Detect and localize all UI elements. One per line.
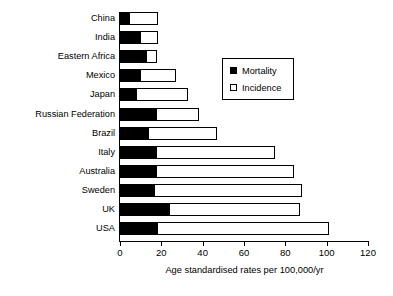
bar-segment-mortality	[120, 12, 130, 25]
bar-chart: ChinaIndiaEastern AfricaMexicoJapanRussi…	[0, 0, 393, 296]
bar-segment-mortality	[120, 184, 155, 197]
x-axis-tick	[244, 241, 245, 246]
bar-segment-mortality	[120, 31, 141, 44]
y-axis-label: UK	[102, 204, 115, 214]
bar-segment-mortality	[120, 165, 157, 178]
bar-row	[120, 165, 368, 178]
x-axis-tick	[161, 241, 162, 246]
legend-swatch-mortality-icon	[230, 67, 237, 74]
bar-row	[120, 184, 368, 197]
x-axis-tick-label: 80	[280, 247, 291, 258]
x-axis-tick-label: 0	[117, 247, 122, 258]
legend-label-mortality: Mortality	[242, 66, 277, 76]
x-axis-tick	[203, 241, 204, 246]
bar-row	[120, 127, 368, 140]
x-axis-tick	[368, 241, 369, 246]
legend-item-incidence: Incidence	[230, 82, 281, 93]
x-axis-tick	[285, 241, 286, 246]
legend: Mortality Incidence	[222, 58, 294, 100]
bar-segment-mortality	[120, 146, 157, 159]
bar-segment-mortality	[120, 127, 149, 140]
legend-swatch-incidence-icon	[230, 84, 237, 91]
bar-row	[120, 108, 368, 121]
bar-segment-mortality	[120, 222, 158, 235]
y-axis-label: Sweden	[82, 185, 115, 195]
bar-row	[120, 12, 368, 25]
y-axis-label: Eastern Africa	[58, 51, 115, 61]
bar-segment-mortality	[120, 203, 170, 216]
x-axis-tick	[327, 241, 328, 246]
bar-segment-mortality	[120, 69, 141, 82]
x-axis-tick	[120, 241, 121, 246]
x-axis-tick-label: 40	[197, 247, 208, 258]
y-axis-label: China	[91, 13, 115, 23]
y-axis-label: Italy	[98, 147, 115, 157]
y-axis-category-labels: ChinaIndiaEastern AfricaMexicoJapanRussi…	[0, 12, 115, 241]
x-axis-title: Age standardised rates per 100,000/yr	[120, 265, 369, 275]
y-axis-label: Brazil	[92, 128, 115, 138]
x-axis-tick-label: 20	[156, 247, 167, 258]
bar-row	[120, 146, 368, 159]
bar-segment-mortality	[120, 88, 137, 101]
y-axis-label: Australia	[79, 166, 115, 176]
plot-area	[120, 12, 368, 241]
bar-row	[120, 222, 368, 235]
x-axis-tick-label: 120	[360, 247, 376, 258]
legend-item-mortality: Mortality	[230, 65, 277, 76]
y-axis-label: India	[95, 32, 115, 42]
x-axis-tick-label: 100	[319, 247, 335, 258]
bar-segment-mortality	[120, 108, 157, 121]
y-axis-label: Russian Federation	[35, 109, 115, 119]
y-axis-label: Mexico	[86, 70, 115, 80]
y-axis-label: USA	[96, 223, 115, 233]
x-axis-tick-label: 60	[239, 247, 250, 258]
bar-row	[120, 203, 368, 216]
y-axis-label: Japan	[90, 89, 115, 99]
bar-row	[120, 31, 368, 44]
bar-segment-mortality	[120, 50, 147, 63]
y-axis-line	[119, 12, 120, 242]
legend-label-incidence: Incidence	[242, 83, 281, 93]
